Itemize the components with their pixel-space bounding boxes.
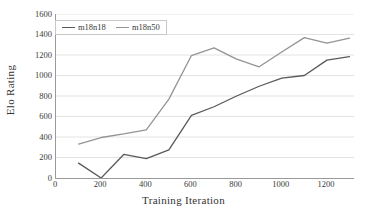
- plot-area: [55, 14, 354, 179]
- x-tick-label: 800: [216, 180, 256, 189]
- series-lines: [79, 38, 350, 178]
- x-axis-title-label: Training Iteration: [142, 194, 225, 206]
- y-tick-label: 400: [26, 133, 52, 142]
- chart-legend: m18n18m18n50: [55, 20, 167, 35]
- x-tick-label: 400: [125, 180, 165, 189]
- elo-rating-line-chart: Elo Rating 02004006008001000120014001600…: [0, 0, 367, 218]
- y-axis-title: Elo Rating: [0, 0, 20, 180]
- y-axis-title-label: Elo Rating: [4, 65, 16, 115]
- gridlines: [56, 14, 354, 158]
- x-tick-label: 1000: [261, 180, 301, 189]
- y-tick-label: 1400: [26, 30, 52, 39]
- series-line-m18n50: [79, 38, 350, 145]
- legend-label: m18n18: [78, 23, 106, 32]
- y-tick-label: 200: [26, 153, 52, 162]
- x-axis-tick-labels: 020040060080010001200: [0, 180, 367, 194]
- y-tick-label: 800: [26, 92, 52, 101]
- y-tick-label: 1200: [26, 51, 52, 60]
- series-line-m18n18: [79, 57, 350, 178]
- legend-label: m18n50: [132, 23, 160, 32]
- legend-line-swatch-icon: [62, 27, 75, 28]
- legend-line-swatch-icon: [116, 27, 129, 28]
- x-tick-label: 1200: [306, 180, 346, 189]
- x-tick-label: 0: [35, 180, 75, 189]
- y-tick-label: 1600: [26, 10, 52, 19]
- y-tick-label: 1000: [26, 71, 52, 80]
- x-tick-label: 600: [170, 180, 210, 189]
- plot-svg: [56, 14, 354, 178]
- legend-entry-m18n50[interactable]: m18n50: [116, 23, 160, 32]
- x-tick-label: 200: [80, 180, 120, 189]
- y-tick-label: 600: [26, 112, 52, 121]
- legend-entry-m18n18[interactable]: m18n18: [62, 23, 106, 32]
- x-axis-title: Training Iteration: [0, 194, 367, 206]
